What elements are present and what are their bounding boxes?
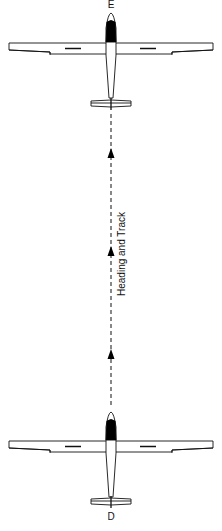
diagram-canvas: E [0, 0, 222, 531]
track-label: Heading and Track [116, 209, 128, 299]
glider-bottom-icon [9, 412, 213, 508]
arrow-up-icon [108, 349, 115, 359]
label-d: D [101, 512, 121, 522]
arrow-up-icon [108, 148, 115, 158]
glider-top-icon [9, 13, 213, 110]
arrow-up-icon [108, 246, 115, 256]
gliders-and-track [0, 0, 222, 531]
